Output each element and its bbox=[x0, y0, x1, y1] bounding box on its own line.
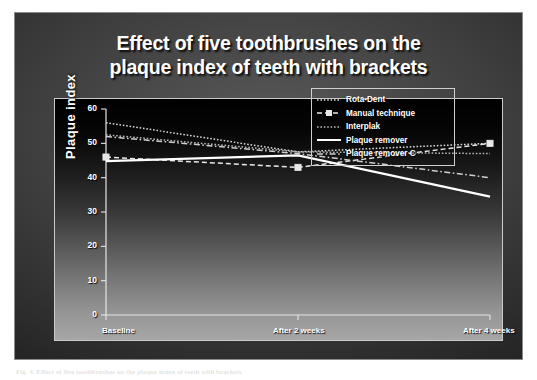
y-axis-tick-label: 10 bbox=[71, 275, 97, 285]
presentation-slide: Effect of five toothbrushes on the plaqu… bbox=[14, 12, 523, 360]
chart-legend: Rota-DentManual techniqueInterplakPlaque… bbox=[311, 88, 455, 166]
x-axis-tick-label: After 2 weeks bbox=[273, 326, 325, 335]
legend-item-label: Plaque remover bbox=[346, 136, 407, 145]
y-axis-tick-label: 30 bbox=[71, 206, 97, 216]
legend-item-label: Plaque remover C bbox=[346, 149, 416, 158]
legend-line-swatch-icon bbox=[316, 134, 342, 146]
y-axis-tick-label: 40 bbox=[71, 172, 97, 182]
chart-data-point bbox=[103, 154, 109, 160]
legend-item[interactable]: Manual technique bbox=[316, 107, 449, 121]
legend-item-label: Manual technique bbox=[346, 109, 415, 118]
figure-caption: Fig. 4. Effect of five toothbrushes on t… bbox=[16, 368, 521, 378]
chart-data-point bbox=[295, 164, 301, 170]
legend-line-swatch-icon bbox=[316, 107, 342, 119]
y-axis-tick-label: 50 bbox=[71, 137, 97, 147]
x-axis-tick-label: After 4 weeks bbox=[463, 326, 515, 335]
legend-item-label: Rota-Dent bbox=[346, 95, 385, 104]
x-axis-tick-label: Baseline bbox=[102, 326, 135, 335]
page-title: Effect of five toothbrushes on the plaqu… bbox=[15, 31, 522, 79]
legend-item-label: Interplak bbox=[346, 122, 380, 131]
y-axis-tick-label: 20 bbox=[71, 240, 97, 250]
legend-line-swatch-icon bbox=[316, 121, 342, 133]
legend-line-swatch-icon bbox=[316, 94, 342, 106]
y-axis-tick-label: 0 bbox=[71, 309, 97, 319]
legend-item[interactable]: Rota-Dent bbox=[316, 93, 449, 107]
legend-item[interactable]: Plaque remover bbox=[316, 134, 449, 148]
legend-item[interactable]: Plaque remover C bbox=[316, 147, 449, 161]
slide-root: Effect of five toothbrushes on the plaqu… bbox=[0, 0, 537, 380]
legend-item[interactable]: Interplak bbox=[316, 120, 449, 134]
legend-line-swatch-icon bbox=[316, 148, 342, 160]
chart-data-point bbox=[487, 140, 493, 146]
y-axis-tick-label: 60 bbox=[71, 103, 97, 113]
